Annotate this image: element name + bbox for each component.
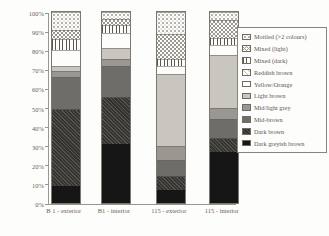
bar-segment (210, 20, 238, 38)
bar-segment (102, 97, 130, 144)
legend-item: Light brown (242, 91, 326, 101)
bar-segment (210, 55, 238, 108)
legend-swatch-icon (242, 104, 251, 111)
y-tick-mark (45, 108, 48, 109)
bar-segment (157, 160, 185, 176)
bar-segment (52, 12, 80, 30)
legend-swatch-icon (242, 57, 251, 64)
y-tick-label: 60% (32, 86, 44, 93)
y-tick-mark (45, 204, 48, 205)
legend-swatch-icon (242, 69, 251, 76)
legend-label: Reddish brown (254, 69, 292, 76)
y-tick-label: 10% (32, 181, 44, 188)
legend-label: Light brown (254, 92, 285, 99)
y-tick-label: 20% (32, 162, 44, 169)
x-category-label: 115 - interior (205, 207, 239, 214)
legend-label: Yellow/Orange (254, 81, 292, 88)
bar-segment (157, 190, 185, 203)
legend-label: Dark greyish brown (254, 140, 304, 147)
bar-segment (157, 146, 185, 160)
bar-segment (157, 74, 185, 146)
y-tick-label: 0% (35, 201, 44, 208)
legend-item: Yellow/Orange (242, 79, 326, 89)
y-tick-label: 90% (32, 29, 44, 36)
bar-4 (209, 11, 239, 204)
bar-segment (210, 152, 238, 203)
y-tick-label: 30% (32, 143, 44, 150)
bar-segment (210, 138, 238, 152)
x-category-label: 115 - exterior (151, 207, 186, 214)
bar-segment (102, 33, 130, 48)
legend-item: Mottled (>2 colours) (242, 32, 326, 42)
bar-segment (210, 119, 238, 138)
bar-segment (52, 77, 80, 109)
bar-2 (101, 11, 131, 204)
legend: Mottled (>2 colours)Mixed (light)Mixed (… (237, 27, 327, 153)
legend-item: Mixed (dark) (242, 55, 326, 65)
y-tick-mark (45, 146, 48, 147)
bar-segment (210, 12, 238, 20)
bar-segment (52, 30, 80, 39)
bar-segment (102, 25, 130, 33)
legend-item: Mixed (light) (242, 44, 326, 54)
legend-swatch-icon (242, 140, 251, 147)
x-category-label: B1 - interior (98, 207, 130, 214)
legend-swatch-icon (242, 93, 251, 100)
legend-label: Mottled (>2 colours) (254, 33, 307, 40)
legend-label: Mixed (dark) (254, 57, 287, 64)
legend-swatch-icon (242, 128, 251, 135)
legend-label: Mid/light grey (254, 104, 291, 111)
x-category-label: B 1 - exterior (46, 207, 81, 214)
bar-segment (157, 176, 185, 189)
bar-segment (157, 12, 185, 34)
legend-item: Mid/light grey (242, 103, 326, 113)
bar-segment (52, 39, 80, 50)
bar-segment (102, 59, 130, 67)
y-tick-label: 100% (29, 10, 44, 17)
legend-swatch-icon (242, 45, 251, 52)
legend-item: Reddish brown (242, 67, 326, 77)
y-tick-mark (45, 127, 48, 128)
legend-swatch-icon (242, 116, 251, 123)
bar-segment (210, 45, 238, 55)
bar-segment (52, 109, 80, 185)
y-tick-label: 40% (32, 124, 44, 131)
legend-label: Dark brown (254, 128, 284, 135)
legend-label: Mid-brown (254, 116, 283, 123)
bar-segment (157, 34, 185, 59)
y-tick-mark (45, 32, 48, 33)
bar-segment (52, 50, 80, 65)
bar-segment (102, 19, 130, 26)
bar-segment (210, 108, 238, 119)
bar-segment (102, 12, 130, 19)
bar-1 (51, 11, 81, 204)
y-tick-mark (45, 51, 48, 52)
chart-figure: Mottled (>2 colours)Mixed (light)Mixed (… (0, 0, 329, 236)
bar-segment (210, 38, 238, 46)
bar-segment (157, 59, 185, 67)
y-tick-mark (45, 13, 48, 14)
bar-segment (157, 66, 185, 74)
y-tick-mark (45, 165, 48, 166)
legend-item: Mid-brown (242, 115, 326, 125)
y-tick-label: 70% (32, 67, 44, 74)
legend-item: Dark greyish brown (242, 138, 326, 148)
y-tick-mark (45, 70, 48, 71)
plot-area (48, 13, 236, 205)
legend-item: Dark brown (242, 126, 326, 136)
y-tick-label: 50% (32, 105, 44, 112)
y-tick-mark (45, 89, 48, 90)
bar-segment (102, 48, 130, 59)
y-tick-mark (45, 184, 48, 185)
y-tick-label: 80% (32, 48, 44, 55)
legend-swatch-icon (242, 34, 251, 41)
bar-segment (102, 144, 130, 203)
legend-swatch-icon (242, 81, 251, 88)
bar-segment (52, 186, 80, 203)
bar-3 (156, 11, 186, 204)
bar-segment (102, 66, 130, 97)
legend-label: Mixed (light) (254, 45, 288, 52)
